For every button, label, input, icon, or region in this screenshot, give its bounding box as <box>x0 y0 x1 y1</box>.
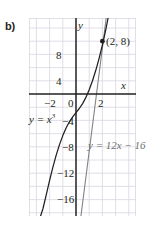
plot-area <box>29 18 136 216</box>
figure-container: b) <box>0 0 164 226</box>
axes <box>29 18 136 216</box>
part-label: b) <box>5 21 15 32</box>
